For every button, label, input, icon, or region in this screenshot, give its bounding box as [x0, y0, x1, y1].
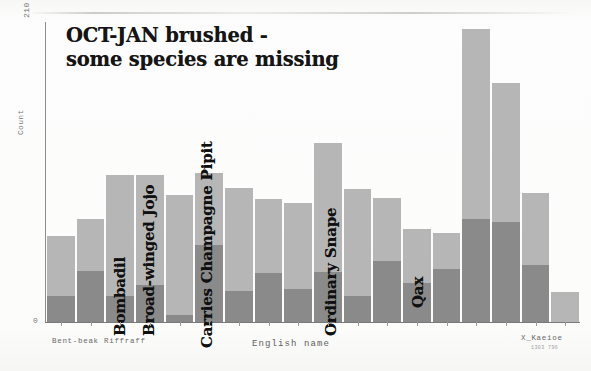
bar-7	[255, 199, 282, 322]
bar-14	[462, 29, 489, 322]
x-tick-label-right: X_Kaeioe	[521, 334, 563, 342]
bar-segment-upper	[373, 198, 400, 261]
y-axis-top-tick: 210	[22, 2, 31, 18]
y-axis-label: Count	[16, 109, 25, 135]
bar-10	[344, 189, 371, 322]
x-axis-label: English name	[252, 339, 330, 349]
x-axis-tick	[565, 322, 566, 326]
x-axis-tick	[506, 322, 507, 326]
x-axis-tick	[387, 322, 388, 326]
bar-segment-upper	[284, 203, 311, 289]
bar-6	[225, 188, 252, 322]
bar-segment-lower	[344, 296, 371, 322]
bar-17	[551, 292, 578, 322]
species-annotation-1: Broad-winged Jojo	[140, 185, 158, 336]
bar-segment-lower	[255, 273, 282, 322]
bar-0	[47, 236, 74, 322]
bar-segment-upper	[522, 193, 549, 264]
figure-page: 210 0 Count English name Bent-beak Riffr…	[0, 0, 591, 371]
bar-segment-lower	[47, 296, 74, 322]
bar-15	[492, 83, 519, 322]
bar-11	[373, 198, 400, 322]
bar-segment-upper	[403, 229, 430, 283]
bar-segment-upper	[255, 199, 282, 273]
y-axis-bottom-tick: 0	[33, 316, 38, 325]
x-axis-tick	[180, 322, 181, 326]
bar-16	[522, 193, 549, 322]
bar-segment-lower	[373, 261, 400, 322]
bar-segment-lower	[433, 269, 460, 322]
species-annotation-2: Carries Champagne Pipit	[198, 141, 216, 348]
x-axis-tick	[417, 322, 418, 326]
bar-1	[77, 219, 104, 322]
x-axis-tick	[447, 322, 448, 326]
bar-segment-upper	[492, 83, 519, 222]
bar-segment-upper	[462, 29, 489, 219]
bar-segment-lower	[462, 219, 489, 322]
bar-segment-upper	[166, 195, 193, 315]
x-tick-label-left: Bent-beak Riffraff	[52, 337, 146, 345]
bar-13	[433, 233, 460, 322]
bar-segment-lower	[166, 315, 193, 322]
bar-segment-upper	[47, 236, 74, 296]
chart-title: OCT-JAN brushed - some species are missi…	[66, 24, 339, 72]
x-axis-tick	[358, 322, 359, 326]
bar-segment-lower	[77, 271, 104, 322]
species-annotation-3: Ordinary Snape	[322, 208, 340, 336]
x-axis-tick	[269, 322, 270, 326]
x-axis-tick	[239, 322, 240, 326]
x-axis-tick	[209, 322, 210, 326]
x-axis-tick	[61, 322, 62, 326]
bar-segment-upper	[225, 188, 252, 291]
x-axis-tick	[150, 322, 151, 326]
x-axis-tick	[298, 322, 299, 326]
x-axis-tick	[328, 322, 329, 326]
bar-8	[284, 203, 311, 322]
x-tick-label-right-sub: 1303 796	[531, 345, 558, 351]
bar-segment-lower	[225, 291, 252, 322]
x-axis-tick	[120, 322, 121, 326]
x-axis-tick	[536, 322, 537, 326]
bar-12	[403, 229, 430, 322]
scan-artifact-line	[28, 12, 576, 14]
bar-segment-upper	[433, 233, 460, 269]
bar-segment-upper	[551, 292, 578, 322]
bar-segment-lower	[522, 265, 549, 322]
bar-segment-lower	[492, 222, 519, 322]
bar-segment-lower	[284, 289, 311, 322]
bar-segment-upper	[77, 219, 104, 270]
bar-segment-upper	[344, 189, 371, 296]
x-axis-tick	[91, 322, 92, 326]
species-annotation-4: Qax	[409, 277, 427, 308]
x-axis-tick	[476, 322, 477, 326]
bar-4	[166, 195, 193, 322]
